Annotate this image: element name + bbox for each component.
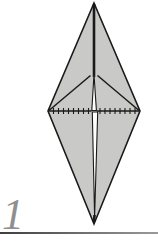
bottom-tip-crease [94, 215, 95, 222]
step-number: 1 [2, 193, 24, 237]
step-divider [0, 232, 158, 234]
origami-instruction-page: 1 [0, 0, 158, 244]
